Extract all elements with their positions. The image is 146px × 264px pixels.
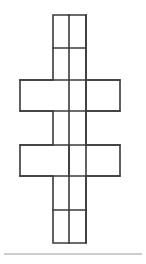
net-face-upper-band-right-rect <box>86 80 120 111</box>
net-diagram <box>0 0 146 264</box>
net-face-lower-band-right-rect <box>69 145 120 176</box>
net-faces-group <box>20 15 120 243</box>
net-face-upper-band-left-rect <box>20 80 86 111</box>
net-face-lower-band-left-rect <box>20 145 69 176</box>
figure-canvas <box>0 0 146 264</box>
